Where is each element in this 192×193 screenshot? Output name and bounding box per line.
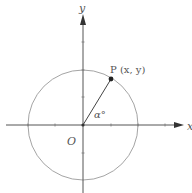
x-axis-label: x bbox=[187, 120, 192, 133]
y-axis-label: y bbox=[78, 2, 86, 15]
angle-label: α° bbox=[94, 109, 106, 120]
point-p bbox=[109, 77, 114, 82]
origin-label: O bbox=[67, 135, 76, 148]
unit-circle-diagram: y x O P (x, y) α° bbox=[0, 0, 192, 193]
y-axis-arrow-icon bbox=[80, 14, 86, 25]
point-p-label: P (x, y) bbox=[110, 64, 145, 75]
x-axis-arrow-icon bbox=[174, 122, 184, 128]
origin-point bbox=[81, 123, 84, 126]
